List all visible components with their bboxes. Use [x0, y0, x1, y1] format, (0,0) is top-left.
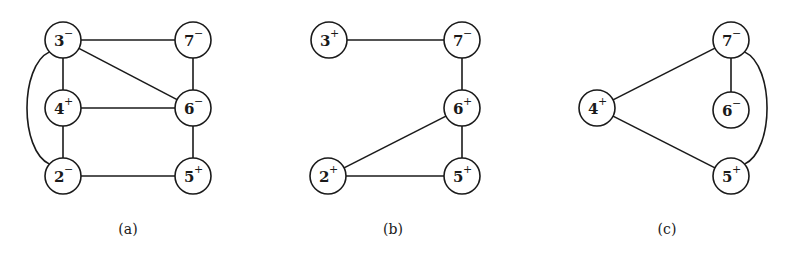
node-sign: +	[732, 163, 741, 176]
node-2-minus: 2−	[45, 158, 81, 194]
node-6-plus: 6+	[444, 90, 480, 126]
node-6-minus: 6−	[175, 90, 211, 126]
node-number: 5	[453, 168, 463, 186]
node-3-plus: 3+	[311, 22, 347, 58]
node-number: 7	[184, 32, 194, 50]
panel-caption: (a)	[118, 221, 137, 237]
node-sign: −	[732, 27, 741, 40]
node-number: 6	[453, 100, 463, 118]
edge-4-5	[613, 116, 715, 168]
node-5-plus: 5+	[175, 158, 211, 194]
node-number: 4	[588, 100, 598, 118]
node-sign: −	[732, 97, 741, 110]
node-4-plus: 4+	[579, 90, 615, 126]
edge-3-6	[79, 48, 177, 99]
node-sign: +	[329, 163, 338, 176]
panel-c: 4+7−6−5+(c)	[579, 22, 767, 237]
node-number: 2	[54, 168, 64, 186]
node-number: 4	[54, 100, 64, 118]
node-number: 6	[722, 102, 732, 120]
node-7-minus: 7−	[175, 22, 211, 58]
node-sign: −	[194, 27, 203, 40]
node-number: 3	[320, 32, 330, 50]
edge-2-6	[344, 116, 446, 168]
graph-figure: 3−7−4+6−2−5+(a)3+7−6+2+5+(b)4+7−6−5+(c)	[0, 0, 788, 260]
node-number: 5	[722, 168, 732, 186]
panel-b: 3+7−6+2+5+(b)	[310, 22, 480, 237]
panel-caption: (b)	[383, 221, 403, 237]
node-sign: −	[194, 95, 203, 108]
node-3-minus: 3−	[45, 22, 81, 58]
node-5-plus: 5+	[444, 158, 480, 194]
node-2-plus: 2+	[310, 158, 346, 194]
edge-4-7	[613, 48, 715, 100]
node-7-minus: 7−	[713, 22, 749, 58]
node-sign: +	[463, 95, 472, 108]
node-number: 3	[54, 32, 64, 50]
node-number: 7	[722, 32, 732, 50]
node-number: 7	[453, 32, 463, 50]
node-6-minus: 6−	[713, 92, 749, 128]
node-sign: +	[64, 95, 73, 108]
node-number: 5	[184, 168, 194, 186]
node-5-plus: 5+	[713, 158, 749, 194]
node-sign: −	[64, 163, 73, 176]
node-sign: −	[64, 27, 73, 40]
panel-caption: (c)	[658, 221, 677, 237]
node-number: 6	[184, 100, 194, 118]
node-sign: +	[330, 27, 339, 40]
node-sign: +	[463, 163, 472, 176]
node-7-minus: 7−	[444, 22, 480, 58]
node-4-plus: 4+	[45, 90, 81, 126]
node-number: 2	[319, 168, 329, 186]
panel-a: 3−7−4+6−2−5+(a)	[27, 22, 211, 237]
node-sign: +	[194, 163, 203, 176]
node-sign: −	[463, 27, 472, 40]
node-sign: +	[598, 95, 607, 108]
